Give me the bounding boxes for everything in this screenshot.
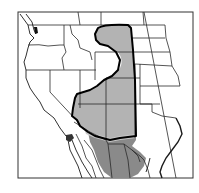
range-map [0, 0, 199, 193]
range-map-svg [0, 0, 199, 193]
range-primary-area [72, 25, 136, 140]
puget-sound-marker [34, 27, 38, 34]
